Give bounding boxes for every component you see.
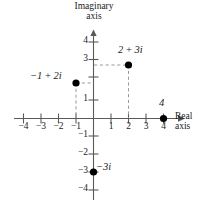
ytick-label-minus4: −4 (74, 184, 88, 194)
ytick-label-3: 3 (74, 54, 88, 64)
xtick-label-minus2: −2 (51, 122, 67, 132)
ytick-label-1: 1 (74, 94, 88, 104)
point-label-minus1plus2i-imag: 2i (54, 70, 62, 81)
complex-plane-plot (0, 0, 212, 208)
imaginary-axis-title: Imaginary axis (58, 2, 130, 22)
imaginary-axis-title-line2: axis (58, 12, 130, 22)
point-label-4: 4 (159, 97, 164, 108)
xtick-label-2: 2 (121, 122, 137, 132)
point-label-minus1plus2i: −1 + 2i (30, 70, 62, 81)
ytick-label-minus1: −1 (74, 130, 88, 140)
xtick-label-minus3: −3 (33, 122, 49, 132)
data-point-minus1plus2i (72, 79, 79, 86)
real-axis-title: Real axis (175, 112, 211, 132)
xtick-label-minus4: −4 (16, 122, 32, 132)
point-label-minus1plus2i-real: −1 (30, 70, 42, 81)
point-label-2plus3i-operator: + (123, 44, 134, 55)
data-point-2plus3i (125, 61, 132, 68)
point-label-2plus3i: 2 + 3i (118, 44, 143, 55)
xtick-label-4: 4 (156, 122, 172, 132)
point-label-minus1plus2i-operator: + (42, 70, 53, 81)
ytick-label-4: 4 (74, 36, 88, 46)
real-axis-title-line2: axis (175, 122, 211, 132)
point-label-2plus3i-imag: 3i (134, 44, 142, 55)
xtick-label-3: 3 (138, 122, 154, 132)
ytick-label-minus3: −3 (74, 166, 88, 176)
complex-plane-figure: Imaginary axis Real axis −4 −3 −2 −1 1 2… (0, 0, 212, 208)
point-label-minus3i: −3i (96, 161, 111, 172)
ytick-label-minus2: −2 (74, 148, 88, 158)
imaginary-axis-arrowhead (90, 30, 96, 37)
xtick-label-1: 1 (103, 122, 119, 132)
